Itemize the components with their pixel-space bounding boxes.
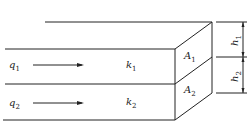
dim-arrow-h1-bot xyxy=(242,52,245,57)
arrowhead-1 xyxy=(77,63,84,67)
dim-arrow-h2-bot xyxy=(242,88,245,93)
top-diagonal xyxy=(175,22,212,49)
dim-arrow-h2-top xyxy=(242,57,245,62)
label-k1: k1 xyxy=(126,60,137,73)
dim-arrow-h1-top xyxy=(242,22,245,27)
label-A2: A2 xyxy=(184,85,196,98)
label-h2: h2 xyxy=(230,71,243,82)
label-k2: k2 xyxy=(126,97,137,110)
label-q2: q2 xyxy=(9,98,20,111)
label-q1: q1 xyxy=(9,60,20,73)
label-A1: A1 xyxy=(184,51,196,64)
label-h1: h1 xyxy=(230,35,243,46)
arrowhead-2 xyxy=(77,101,84,105)
